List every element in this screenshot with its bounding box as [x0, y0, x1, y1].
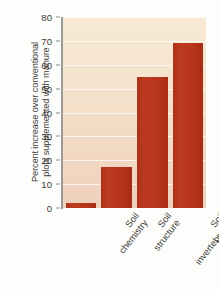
y-axis-tick-mark — [56, 40, 60, 41]
y-axis-tick-mark — [56, 160, 60, 161]
bar-series — [63, 17, 206, 208]
y-axis-tick-label: 10 — [30, 179, 56, 190]
x-axis-category-labels: SoilchemistrySoilstructureSoilinvertebra… — [0, 209, 219, 289]
y-axis-tick-mark — [56, 17, 60, 18]
y-axis-tick-label: 80 — [30, 12, 56, 23]
bar — [66, 203, 97, 208]
bar-chart-figure: Percent increase over conventional plots… — [0, 0, 219, 289]
bar — [137, 77, 168, 208]
y-axis-tick-label: 30 — [30, 131, 56, 142]
bar — [173, 43, 204, 208]
y-axis-tick-mark — [56, 184, 60, 185]
plot-area — [63, 17, 206, 208]
y-axis-tick-label: 20 — [30, 155, 56, 166]
y-axis-tick-label: 50 — [30, 83, 56, 94]
y-axis-tick-label: 60 — [30, 59, 56, 70]
bar — [101, 167, 132, 208]
x-axis-category-label: Soilchemistry — [108, 211, 150, 256]
y-axis-tick-mark — [56, 64, 60, 65]
y-axis-tick-mark — [56, 136, 60, 137]
y-axis-tick-mark — [56, 88, 60, 89]
y-axis-tick-label: 40 — [30, 107, 56, 118]
x-axis-category-label: Soilstructure — [143, 211, 183, 253]
y-axis-title: Percent increase over conventional plots… — [0, 0, 32, 215]
y-axis-tick-label: 70 — [30, 35, 56, 46]
y-axis-tick-mark — [56, 112, 60, 113]
